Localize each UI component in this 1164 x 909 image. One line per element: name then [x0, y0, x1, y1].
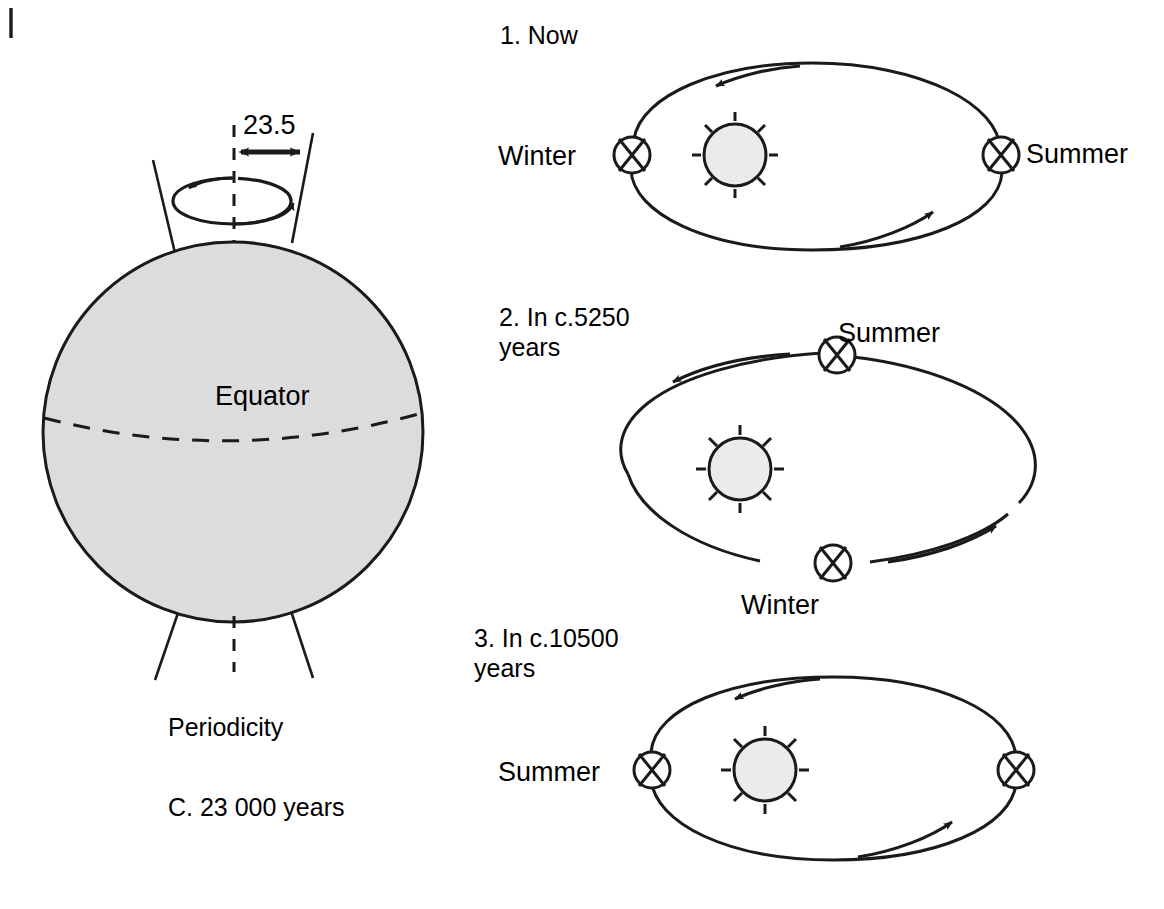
tilt-angle-label: 23.5 [243, 110, 296, 142]
panel-1-title: 1. Now [500, 21, 578, 51]
sun-icon-panel-2 [696, 425, 784, 513]
orbit-panel-2 [621, 337, 1036, 581]
earth-marker-panel-3-right [998, 752, 1034, 788]
periodicity-label: Periodicity [168, 713, 283, 743]
orbit-path-upper [634, 63, 1000, 150]
equator-label: Equator [215, 381, 310, 413]
orbit-path-p2-right-upper [853, 357, 1035, 503]
precession-diagram-figure: 23.5 Equator Periodicity C. 23 000 years… [0, 0, 1164, 909]
earth-marker-panel-1-left [614, 137, 650, 173]
earth-marker-panel-2-bottom [815, 545, 851, 581]
earth-marker-panel-3-left [634, 752, 670, 788]
sun-icon-panel-1 [692, 112, 778, 198]
orbit-panel-1 [614, 63, 1019, 250]
orbit-direction-arrow-top [716, 66, 800, 86]
orbit-path-p3-lower [651, 779, 1016, 860]
orbit-panel-3 [634, 677, 1034, 860]
sun-icon-panel-3 [721, 726, 809, 814]
orbit-path-lower [631, 170, 1002, 250]
earth-sphere [43, 242, 423, 622]
panel-2-summer-label: Summer [838, 318, 940, 350]
panel-1-summer-label: Summer [1026, 139, 1128, 171]
panel-3-summer-label: Summer [498, 757, 600, 789]
orbit-path-p2-right-lower [870, 514, 1008, 562]
panel-2-title: 2. In c.5250 years [499, 303, 630, 362]
orbit-direction-arrow-bottom [840, 212, 933, 247]
panel-3-title: 3. In c.10500 years [474, 624, 619, 683]
periodicity-value-label: C. 23 000 years [168, 793, 345, 823]
earth-marker-panel-1-right [983, 137, 1019, 173]
panel-2-winter-label: Winter [741, 590, 819, 622]
orbit-path-p3-upper [651, 677, 1016, 757]
orbit-direction-arrow-p3-top [735, 679, 820, 699]
orbit-direction-arrow-p3-bottom [858, 822, 952, 857]
panel-1-winter-label: Winter [498, 141, 576, 173]
